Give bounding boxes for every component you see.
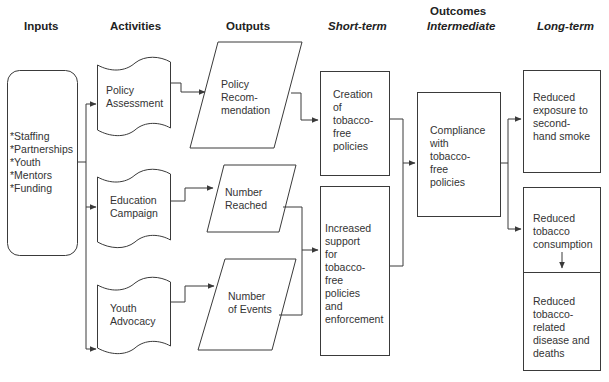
intermediate-label-compliance: Compliance with tobacco- free policies [430,124,485,189]
logic-model-diagram [0,0,609,382]
connector-inputs-to-activities [77,104,96,349]
activity-label-education-campaign: Education Campaign [110,194,158,220]
connector-outputs-to-short-term [279,93,318,315]
short-term-label-support: Increased support for tobacco- free poli… [325,222,383,326]
connector-short-to-intermediate [389,119,415,266]
header-activities: Activities [110,20,161,32]
header-long-term: Long-term [537,20,594,32]
long-term-label-exposure: Reduced exposure to second- hand smoke [533,91,590,143]
long-term-label-disease: Reduced tobacco- related disease and dea… [533,295,590,360]
header-intermediate: Intermediate [427,20,495,32]
output-label-policy-recommendation: Policy Recom- mendation [221,78,270,117]
activity-label-youth-advocacy: Youth Advocacy [110,302,156,328]
long-term-label-consumption: Reduced tobacco consumption [533,212,593,251]
activity-label-policy-assessment: Policy Assessment [106,84,163,110]
connector-intermediate-to-long-term [500,119,521,229]
header-inputs: Inputs [24,20,59,32]
inputs-list: *Staffing *Partnerships *Youth *Mentors … [10,130,73,195]
output-label-number-of-events: Number of Events [228,290,272,316]
header-outcomes: Outcomes [430,5,486,17]
header-short-term: Short-term [328,20,387,32]
connector-activities-to-outputs [170,83,214,302]
header-outputs: Outputs [226,20,270,32]
short-term-label-creation: Creation of tobacco- free policies [333,88,373,153]
output-label-number-reached: Number Reached [225,186,267,212]
